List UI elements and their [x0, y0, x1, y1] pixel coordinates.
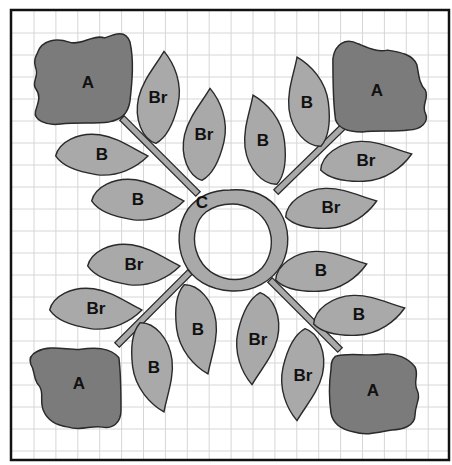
- leaf-label: B: [353, 305, 365, 324]
- leaf-label: B: [315, 261, 327, 280]
- center-label: C: [196, 193, 208, 212]
- flower-label: A: [371, 81, 383, 100]
- leaf-label: B: [96, 145, 108, 164]
- leaf-label: Br: [357, 151, 376, 170]
- leaf: Br: [229, 290, 284, 388]
- leaf-label: Br: [87, 299, 106, 318]
- quilt-block-diagram: C BrBrBBBBBrBrBrBrBBBBBrBr AAAA: [0, 0, 452, 465]
- flowers: AAAA: [30, 34, 426, 434]
- leaf: B: [236, 91, 291, 189]
- flower-bottom-right: A: [329, 354, 418, 434]
- flower-label: A: [73, 374, 85, 393]
- leaf: Br: [284, 184, 379, 232]
- leaf-label: Br: [149, 88, 168, 107]
- leaf: Br: [177, 85, 232, 183]
- leaf: B: [54, 131, 149, 179]
- flower-label: A: [367, 381, 379, 400]
- leaf: B: [90, 176, 185, 224]
- leaf: Br: [48, 285, 143, 333]
- flower-label: A: [82, 73, 94, 92]
- leaf-label: B: [192, 320, 204, 339]
- leaf-label: B: [257, 131, 269, 150]
- leaf-label: Br: [195, 125, 214, 144]
- leaf: B: [280, 53, 335, 151]
- leaf-label: Br: [322, 198, 341, 217]
- leaf-label: B: [132, 190, 144, 209]
- leaf: Br: [86, 241, 181, 289]
- leaf: Br: [319, 137, 414, 185]
- flower-bottom-left: A: [30, 348, 121, 429]
- leaf-label: B: [148, 358, 160, 377]
- leaf-label: B: [301, 93, 313, 112]
- center-ring: C: [179, 190, 288, 291]
- leaf-label: Br: [249, 330, 268, 349]
- leaf: B: [274, 247, 369, 295]
- leaf: B: [312, 291, 407, 339]
- leaf-label: Br: [125, 255, 144, 274]
- leaf-label: Br: [294, 366, 313, 385]
- flower-top-left: A: [34, 34, 132, 125]
